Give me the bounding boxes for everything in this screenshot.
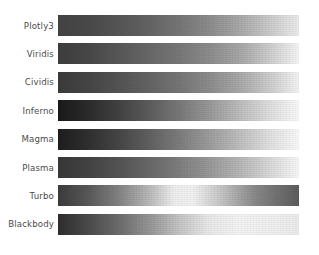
colorscale-row: Plotly3 bbox=[0, 12, 319, 40]
colorscale-bar-wrap bbox=[58, 129, 319, 150]
colorscale-label: Viridis bbox=[0, 49, 58, 59]
colorscale-bar bbox=[58, 43, 299, 64]
colorscale-bar-wrap bbox=[58, 15, 319, 36]
colorscale-bar-wrap bbox=[58, 185, 319, 206]
colorscale-label: Blackbody bbox=[0, 219, 58, 229]
colorscale-row: Cividis bbox=[0, 68, 319, 96]
colorscale-bar-wrap bbox=[58, 157, 319, 178]
colorscale-bar bbox=[58, 15, 299, 36]
colorscale-label: Plotly3 bbox=[0, 21, 58, 31]
colorscale-row: Plasma bbox=[0, 154, 319, 182]
colorscale-bar bbox=[58, 129, 299, 150]
colorscale-label: Plasma bbox=[0, 163, 58, 173]
colorscale-label: Inferno bbox=[0, 106, 58, 116]
colorscale-bar bbox=[58, 157, 299, 178]
colorscale-row: Inferno bbox=[0, 97, 319, 125]
colorscale-bar bbox=[58, 72, 299, 93]
colorscale-swatch-figure: Plotly3ViridisCividisInfernoMagmaPlasmaT… bbox=[0, 0, 319, 255]
colorscale-bar bbox=[58, 214, 299, 235]
colorscale-row: Turbo bbox=[0, 182, 319, 210]
colorscale-label: Turbo bbox=[0, 191, 58, 201]
colorscale-label: Magma bbox=[0, 134, 58, 144]
colorscale-bar bbox=[58, 100, 299, 121]
colorscale-bar-wrap bbox=[58, 72, 319, 93]
colorscale-bar-wrap bbox=[58, 100, 319, 121]
colorscale-bar-wrap bbox=[58, 43, 319, 64]
colorscale-row: Blackbody bbox=[0, 210, 319, 238]
colorscale-bar bbox=[58, 185, 299, 206]
colorscale-row: Magma bbox=[0, 125, 319, 153]
colorscale-row: Viridis bbox=[0, 40, 319, 68]
colorscale-label: Cividis bbox=[0, 77, 58, 87]
colorscale-bar-wrap bbox=[58, 214, 319, 235]
